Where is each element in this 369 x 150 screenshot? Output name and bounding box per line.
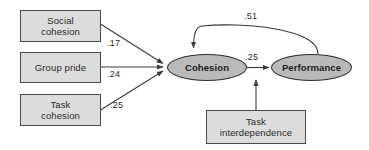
coefficient-social-to-cohesion: .17 [107,38,120,48]
node-task-cohesion[interactable]: Task cohesion [20,94,101,126]
node-performance-label: Performance [282,62,341,73]
node-group-pride[interactable]: Group pride [20,52,101,83]
coefficient-taskcohesion-to-cohesion: .25 [110,100,123,110]
node-performance[interactable]: Performance [271,54,352,81]
coefficient-pride-to-cohesion: .24 [107,69,120,79]
node-cohesion-label: Cohesion [185,62,229,73]
node-task-cohesion-label: Task cohesion [41,99,80,122]
node-cohesion[interactable]: Cohesion [167,54,247,81]
coefficient-cohesion-to-performance: .25 [245,52,258,62]
node-social-cohesion-label: Social cohesion [41,15,80,38]
edge-performance-to-cohesion-curve [194,25,319,54]
node-task-interdependence-label: Task interdependence [220,116,292,139]
coefficient-performance-to-cohesion: .51 [244,11,257,21]
path-model-diagram: Social cohesion Group pride Task cohesio… [0,0,369,150]
node-social-cohesion[interactable]: Social cohesion [20,10,101,42]
node-task-interdependence[interactable]: Task interdependence [206,110,306,144]
node-group-pride-label: Group pride [35,62,86,74]
